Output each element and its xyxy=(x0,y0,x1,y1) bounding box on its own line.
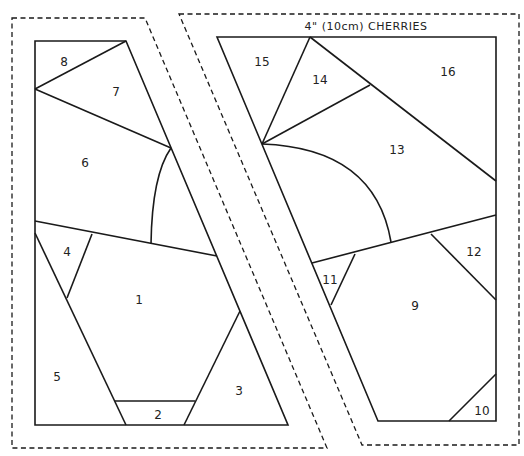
piece-label-5: 5 xyxy=(53,370,61,384)
piece-label-11: 11 xyxy=(322,273,337,287)
left-section-seams xyxy=(35,41,240,425)
piece-label-13: 13 xyxy=(389,143,404,157)
piece-label-7: 7 xyxy=(112,85,120,99)
piece-label-9: 9 xyxy=(411,299,419,313)
piece-label-1: 1 xyxy=(135,293,143,307)
right-seam-allowance xyxy=(179,14,519,445)
pattern-title: 4" (10cm) CHERRIES xyxy=(305,20,428,33)
piece-label-16: 16 xyxy=(440,65,455,79)
right-section-outline xyxy=(217,37,496,421)
piece-label-6: 6 xyxy=(81,156,89,170)
left-section-outline xyxy=(35,41,288,425)
foundation-pattern: 4" (10cm) CHERRIES 1 2 3 4 5 6 7 8 9 10 … xyxy=(0,0,524,456)
piece-label-14: 14 xyxy=(312,73,327,87)
piece-label-15: 15 xyxy=(254,55,269,69)
piece-label-8: 8 xyxy=(60,55,68,69)
piece-label-10: 10 xyxy=(474,404,489,418)
left-seam-allowance xyxy=(12,18,327,448)
piece-label-2: 2 xyxy=(154,408,162,422)
piece-label-3: 3 xyxy=(235,384,243,398)
piece-label-4: 4 xyxy=(63,245,71,259)
piece-label-12: 12 xyxy=(466,245,481,259)
